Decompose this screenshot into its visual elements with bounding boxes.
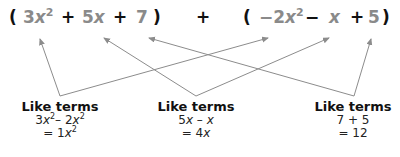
group-result: = 1x2 xyxy=(5,127,115,140)
like-terms-group-x-squared: Like terms 3x2– 2x2 = 1x2 xyxy=(5,99,115,140)
arrow-to-5x xyxy=(104,38,196,96)
arrow-to-5 xyxy=(354,39,371,96)
group-title: Like terms xyxy=(5,99,115,114)
arrow-to-7 xyxy=(149,38,354,96)
group-title: Like terms xyxy=(298,99,400,114)
arrow-to-3x2 xyxy=(40,39,60,96)
arrow-to-neg2x2 xyxy=(60,38,268,96)
group-result: = 12 xyxy=(298,127,400,140)
group-title: Like terms xyxy=(141,99,251,114)
like-terms-group-constants: Like terms 7 + 5 = 12 xyxy=(298,99,400,140)
like-terms-group-x: Like terms 5x – x = 4x xyxy=(141,99,251,140)
group-result: = 4x xyxy=(141,127,251,140)
arrow-to-neg-x xyxy=(196,38,329,96)
